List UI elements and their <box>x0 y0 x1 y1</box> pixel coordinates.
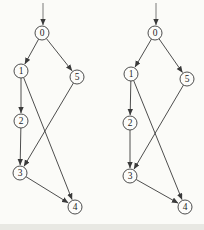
right-graph-edge-1-2 <box>130 81 131 115</box>
right-graph-node-label-4: 4 <box>183 202 188 212</box>
right-graph-node-label-0: 0 <box>153 28 158 38</box>
left-graph-node-label-3: 3 <box>18 168 23 178</box>
right-graph: 015234 <box>123 3 194 214</box>
right-graph-edge-0-1 <box>135 39 151 67</box>
left-graph: 015234 <box>13 3 84 214</box>
right-graph-node-label-5: 5 <box>185 74 190 84</box>
right-graph-edge-5-3 <box>134 85 183 169</box>
left-graph-edge-5-3 <box>24 83 73 166</box>
left-graph-edge-0-5 <box>46 38 72 70</box>
left-graph-node-label-5: 5 <box>75 72 80 82</box>
right-graph-edge-0-5 <box>159 39 182 73</box>
right-graph-node-label-2: 2 <box>128 118 133 128</box>
scan-bottom-edge <box>0 224 204 230</box>
left-graph-node-label-4: 4 <box>73 202 78 212</box>
left-graph-node-label-1: 1 <box>19 66 24 76</box>
left-graph-edge-3-4 <box>26 177 68 203</box>
right-graph-node-label-1: 1 <box>129 69 134 79</box>
left-graph-edge-1-4 <box>24 78 72 200</box>
right-graph-edge-3-4 <box>136 179 178 203</box>
left-graph-edge-2-3 <box>20 128 21 165</box>
directed-graphs-svg: 015234015234 <box>0 0 204 230</box>
left-graph-edge-0-1 <box>25 39 39 64</box>
right-graph-node-label-3: 3 <box>128 171 133 181</box>
left-graph-node-label-0: 0 <box>40 28 45 38</box>
figure-canvas: 015234015234 <box>0 0 204 230</box>
left-graph-node-label-2: 2 <box>19 116 24 126</box>
